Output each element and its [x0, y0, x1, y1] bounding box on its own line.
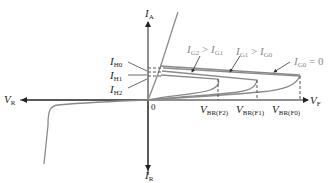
vr-label: VR [4, 94, 15, 107]
ig2-gt-ig1-label: IG2 > IG1 [187, 44, 223, 57]
ih1-label: IH1 [110, 70, 122, 83]
forward-conduction-curve [148, 12, 178, 100]
ir-label: IR [145, 170, 153, 183]
scr-characteristic-diagram [0, 0, 328, 183]
vbr-f0-label: VBR(F0) [272, 104, 300, 117]
ia-label: IA [145, 8, 154, 21]
ih2-label: IH2 [110, 84, 122, 97]
origin-label: 0 [151, 103, 156, 112]
reverse-curve [44, 100, 148, 164]
vbr-f2-label: VBR(F2) [200, 104, 228, 117]
ih0-label: IH0 [110, 56, 122, 69]
ig0-eq-0-label: IG0 = 0 [294, 56, 323, 69]
vf-label: VF [310, 95, 321, 108]
ig1-gt-ig0-label: IG1 > IG0 [236, 46, 272, 59]
curve-ig0 [148, 68, 300, 100]
vbr-f1-label: VBR(F1) [236, 104, 264, 117]
